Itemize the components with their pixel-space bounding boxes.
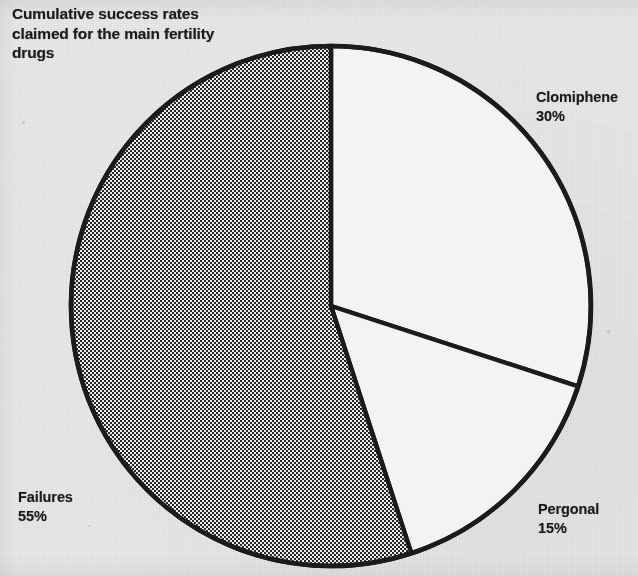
slice-label-failures-percent: 55% xyxy=(18,507,73,526)
slice-label-clomiphene-percent: 30% xyxy=(536,107,618,126)
chart-page: Cumulative success rates claimed for the… xyxy=(0,0,638,576)
slice-label-failures-name: Failures xyxy=(18,489,73,505)
pie-chart xyxy=(0,0,638,576)
slice-label-pergonal-name: Pergonal xyxy=(538,501,599,517)
scan-speck xyxy=(607,330,610,333)
slice-label-pergonal: Pergonal 15% xyxy=(538,500,599,538)
slice-label-pergonal-percent: 15% xyxy=(538,519,599,538)
slice-label-clomiphene: Clomiphene 30% xyxy=(536,88,618,126)
scan-speck xyxy=(88,525,90,527)
slice-label-clomiphene-name: Clomiphene xyxy=(536,89,618,105)
scan-speck xyxy=(22,121,25,124)
slice-label-failures: Failures 55% xyxy=(18,488,73,526)
chart-title: Cumulative success rates claimed for the… xyxy=(12,4,257,63)
